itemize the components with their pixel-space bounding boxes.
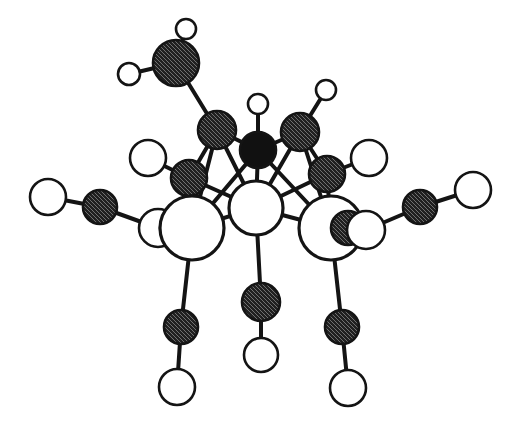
white-atom-far-right <box>455 172 491 208</box>
hatched-atom-top-left <box>153 40 199 86</box>
white-atom-far-left <box>30 179 66 215</box>
large-white-atom-left <box>160 196 224 260</box>
hatched-atom-bottom-left <box>164 310 198 344</box>
black-atom-center-top <box>240 132 276 168</box>
white-atom-bottom-right <box>330 370 366 406</box>
hatched-atom-upper-left-core <box>198 111 236 149</box>
molecule-canvas <box>0 0 517 429</box>
hatched-atom-right-core <box>309 156 345 192</box>
hatched-atom-far-left <box>83 190 117 224</box>
white-atom-bottom-left <box>159 369 195 405</box>
hatched-atom-upper-right-core <box>281 113 319 151</box>
molecular-diagram-figure <box>0 0 517 429</box>
hatched-atom-bottom-right <box>325 310 359 344</box>
large-white-atom-center <box>229 181 283 235</box>
hatched-atom-bottom-center <box>242 283 280 321</box>
small-white-atom-top <box>176 19 196 39</box>
small-white-atom-upper-right <box>316 80 336 100</box>
white-atom-bottom-center <box>244 338 278 372</box>
small-white-atom-upper-left <box>118 63 140 85</box>
small-white-atom-above-black <box>248 94 268 114</box>
white-atom-right-inner <box>347 211 385 249</box>
white-atom-left-upper <box>130 140 166 176</box>
white-atom-right-upper <box>351 140 387 176</box>
atom-layer <box>30 19 491 406</box>
hatched-atom-left-core <box>171 160 207 196</box>
hatched-atom-far-right <box>403 190 437 224</box>
